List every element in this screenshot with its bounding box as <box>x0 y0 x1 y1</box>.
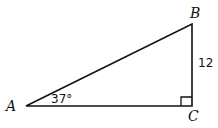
side-bc-length: 12 <box>198 56 213 70</box>
vertex-label-c: C <box>188 108 199 124</box>
right-angle-marker-icon <box>181 97 192 106</box>
vertex-label-b: B <box>189 5 200 21</box>
angle-a-measure: 37° <box>51 92 72 106</box>
triangle-diagram: A B C 12 37° <box>0 0 218 128</box>
vertex-label-a: A <box>4 98 16 114</box>
